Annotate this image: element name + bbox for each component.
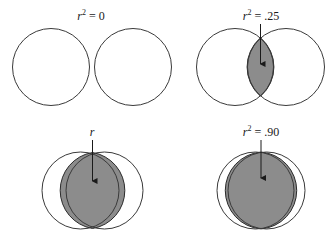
venn-diagram-figure: r2 = 0 r2 = .25 r = .75 r2 = .90	[0, 0, 334, 240]
circle-x	[13, 29, 90, 106]
panel-r2-25: r2 = .25	[197, 8, 325, 106]
panel-label: r2 = .90	[243, 124, 279, 139]
panel-label: r2 = 0	[77, 8, 104, 23]
panel-label: r2 = .25	[243, 8, 279, 23]
panel-label: r = .75	[90, 125, 95, 139]
panel-r2-0: r2 = 0	[13, 8, 172, 106]
panel-r2-75: r = .75	[42, 125, 143, 229]
panel-r2-90: r2 = .90	[217, 124, 305, 229]
circle-y	[95, 29, 172, 106]
